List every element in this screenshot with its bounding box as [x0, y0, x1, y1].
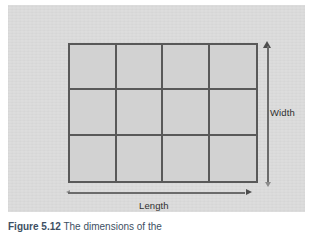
figure-container: Width Length Figure 5.12 The dimensions …: [0, 0, 312, 232]
grid-cell: [117, 45, 164, 90]
arrow-head-down-icon: [265, 182, 271, 187]
grid-cell: [163, 136, 210, 181]
figure-caption-number: Figure 5.12: [8, 221, 61, 232]
arrow-head-right-icon: [246, 189, 252, 195]
grid-cell: [210, 90, 257, 135]
figure-caption-text: The dimensions of the: [63, 221, 161, 232]
grid-cell: [70, 45, 117, 90]
width-label: Width: [270, 107, 295, 118]
grid-cell: [70, 90, 117, 135]
grid-cells: [70, 45, 256, 181]
length-arrow-icon: [66, 188, 252, 198]
figure-caption: Figure 5.12 The dimensions of the: [8, 221, 308, 232]
arrow-shaft-horizontal: [68, 192, 245, 194]
grid-cell: [210, 136, 257, 181]
grid-cell: [117, 136, 164, 181]
grid-cell: [163, 90, 210, 135]
grid-cell: [117, 90, 164, 135]
rectangle-grid: [68, 43, 258, 183]
grid-cell: [163, 45, 210, 90]
diagram-panel: Width Length: [8, 5, 305, 212]
grid-cell: [70, 136, 117, 181]
grid-cell: [210, 45, 257, 90]
length-label: Length: [139, 200, 169, 211]
arrow-shaft-vertical: [267, 46, 269, 185]
